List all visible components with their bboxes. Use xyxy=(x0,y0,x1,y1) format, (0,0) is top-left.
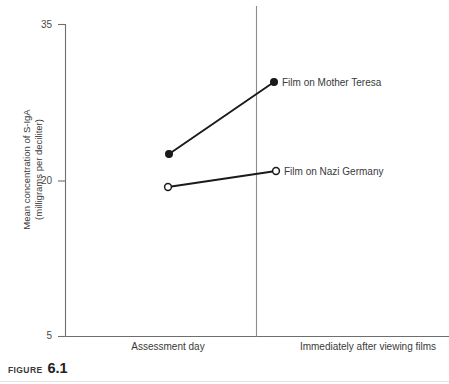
caption-divider-rule xyxy=(0,381,449,382)
figure-caption: FIGURE 6.1 xyxy=(8,360,68,376)
data-point-nazi-germany-after-viewing xyxy=(273,168,280,175)
series-label-nazi-germany: Film on Nazi Germany xyxy=(284,167,383,177)
y-axis-title-line-1: Mean concentration of S-IgA xyxy=(21,80,33,260)
y-axis-title: Mean concentration of S-IgA (milligrams … xyxy=(21,80,44,260)
data-point-mother-teresa-assessment-day xyxy=(166,151,173,158)
series-line-mother-teresa xyxy=(169,82,274,154)
figure-container: 35 20 5 Mean concentration of S-IgA (mil… xyxy=(0,0,449,384)
series-line-nazi-germany xyxy=(168,171,276,187)
chart-plot-area xyxy=(0,0,449,384)
x-tick-label-after-viewing-films: Immediately after viewing films xyxy=(288,342,448,352)
data-point-mother-teresa-after-viewing xyxy=(271,79,278,86)
y-tick-label-5: 5 xyxy=(26,331,52,341)
figure-caption-word: FIGURE xyxy=(8,365,43,375)
data-point-nazi-germany-assessment-day xyxy=(165,184,172,191)
figure-caption-number: 6.1 xyxy=(48,360,68,376)
series-label-mother-teresa: Film on Mother Teresa xyxy=(282,78,381,88)
y-tick-label-35: 35 xyxy=(26,20,52,30)
y-axis-title-line-2: (milligrams per deciliter) xyxy=(32,80,44,260)
x-tick-label-assessment-day: Assessment day xyxy=(100,342,236,352)
